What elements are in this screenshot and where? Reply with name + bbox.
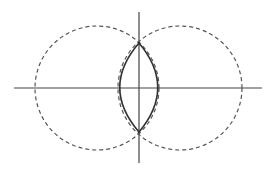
bottom-intersection-point (138, 131, 141, 134)
diagram-canvas (0, 0, 269, 174)
top-intersection-point (138, 42, 141, 45)
